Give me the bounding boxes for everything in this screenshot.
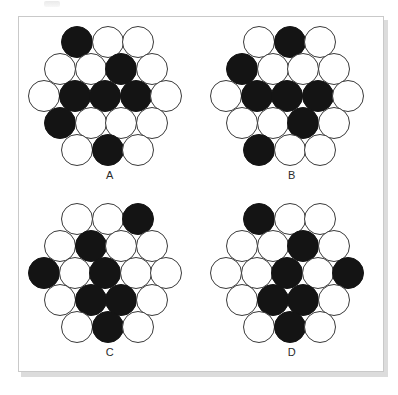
empty-circle[interactable] [243, 311, 275, 343]
empty-circle[interactable] [304, 311, 336, 343]
panel-b[interactable]: B [201, 17, 383, 194]
scan-artifact-mark [44, 1, 60, 7]
empty-circle[interactable] [274, 134, 306, 166]
filled-circle[interactable] [274, 311, 306, 343]
panel-label-a: A [19, 169, 201, 181]
figure-canvas: A B C D [0, 0, 398, 395]
hex-row [210, 311, 335, 343]
hex-pack-a [28, 26, 192, 166]
panel-label-b: B [201, 169, 383, 181]
panel-a[interactable]: A [19, 17, 201, 194]
hex-pack-b [210, 26, 374, 166]
hex-row [28, 134, 153, 166]
empty-circle[interactable] [122, 311, 154, 343]
panel-label-d: D [201, 346, 383, 358]
empty-circle[interactable] [61, 134, 93, 166]
panel-c[interactable]: C [19, 194, 201, 371]
empty-circle[interactable] [122, 134, 154, 166]
panel-grid: A B C D [19, 17, 383, 371]
empty-circle[interactable] [304, 134, 336, 166]
hex-pack-c [28, 203, 192, 343]
panel-label-c: C [19, 346, 201, 358]
hex-row [28, 311, 153, 343]
empty-circle[interactable] [61, 311, 93, 343]
hex-pack-d [210, 203, 374, 343]
figure-frame: A B C D [18, 16, 384, 372]
filled-circle[interactable] [92, 134, 124, 166]
panel-d[interactable]: D [201, 194, 383, 371]
filled-circle[interactable] [92, 311, 124, 343]
filled-circle[interactable] [243, 134, 275, 166]
hex-row [210, 134, 335, 166]
